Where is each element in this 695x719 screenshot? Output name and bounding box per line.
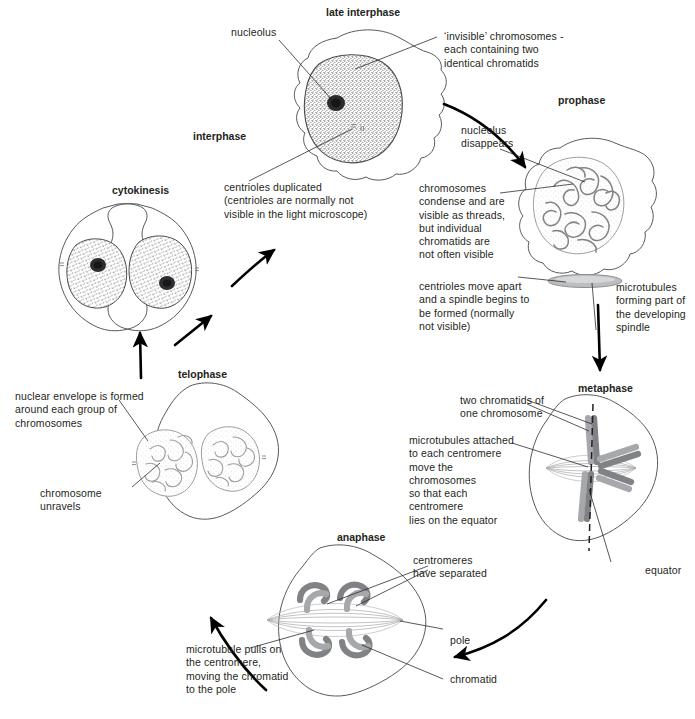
annotation-chromatid: chromatid bbox=[450, 673, 497, 686]
annotation-microtubule-pulls: microtubule pulls on the centromere, mov… bbox=[186, 643, 296, 696]
annotation-nuclear-envelope: nuclear envelope is formed around each g… bbox=[15, 390, 165, 430]
annotation-centromeres-separated: centromeres have separated bbox=[413, 554, 503, 581]
stage-title-metaphase: metaphase bbox=[578, 382, 633, 394]
annotation-chromosome-unravels: chromosome unravels bbox=[40, 487, 140, 514]
arrow-cytokinesis-to-interphase bbox=[175, 316, 211, 345]
annotation-pole: pole bbox=[450, 634, 470, 647]
stage-title-anaphase: anaphase bbox=[337, 531, 385, 543]
annotation-equator: equator bbox=[645, 564, 681, 577]
annotation-microtubules-attached: microtubules attached to each centromere… bbox=[409, 434, 521, 527]
annotation-nucleolus: nucleolus bbox=[231, 26, 276, 39]
annotation-microtubules-spindle: microtubules forming part of the develop… bbox=[616, 281, 692, 334]
prophase-cell bbox=[519, 138, 657, 287]
arrow-prophase-to-metaphase bbox=[598, 305, 600, 370]
diagram-artwork bbox=[0, 0, 695, 719]
cytokinesis-cell bbox=[59, 204, 199, 331]
stage-title-telophase: telophase bbox=[178, 368, 227, 380]
annotation-centrioles-duplicated: centrioles duplicated (centrioles are no… bbox=[224, 181, 434, 221]
annotation-chromosomes-condense: chromosomes condense and are visible as … bbox=[419, 182, 511, 262]
late-interphase-cell bbox=[294, 30, 446, 180]
arrow-telophase-to-cytokinesis bbox=[140, 333, 141, 378]
annotation-invisible-chromosomes: ‘invisible’ chromosomes - each containin… bbox=[444, 30, 614, 70]
arrow-metaphase-to-anaphase bbox=[455, 600, 546, 657]
annotation-two-chromatids: two chromatids of one chromosome bbox=[460, 394, 570, 421]
stage-title-late-interphase: late interphase bbox=[326, 6, 400, 18]
arrow-interphase-to-late-interphase bbox=[232, 250, 274, 286]
cell-cycle-diagram: late interphase prophase metaphase anaph… bbox=[0, 0, 695, 719]
annotation-nucleolus-disappears: nucleolus disappears bbox=[461, 124, 551, 151]
stage-title-cytokinesis: cytokinesis bbox=[112, 184, 169, 196]
stage-title-prophase: prophase bbox=[558, 94, 605, 106]
annotation-centrioles-move-apart: centrioles move apart and a spindle begi… bbox=[419, 280, 535, 333]
stage-title-interphase: interphase bbox=[193, 130, 246, 142]
